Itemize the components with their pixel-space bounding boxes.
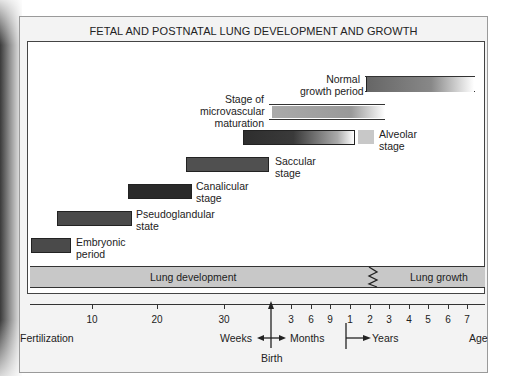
- development-growth-band: Lung development Lung growth: [30, 266, 485, 288]
- tick-label: 6: [438, 314, 458, 325]
- label-line: Saccular: [275, 155, 316, 167]
- axis-label-birth: Birth: [261, 352, 283, 364]
- tick-label: 20: [147, 314, 167, 325]
- bar-alveolar-gradient: [243, 130, 355, 145]
- tick-label: 3: [379, 314, 399, 325]
- axis-label-weeks: Weeks: [220, 332, 252, 344]
- bar-microvascular: [272, 106, 385, 118]
- label-line: stage: [379, 140, 417, 152]
- label-line: Embryonic: [76, 236, 126, 248]
- tick-label: 7: [457, 314, 477, 325]
- bar-pseudoglandular: [57, 211, 132, 226]
- tick: [92, 304, 93, 309]
- tick: [370, 304, 371, 309]
- label-line: state: [136, 220, 215, 232]
- bar-canalicular: [128, 184, 192, 199]
- label-normal-growth: Normal growth period: [300, 73, 360, 97]
- label-line: Canalicular: [196, 180, 249, 192]
- microvascular-top-line: [269, 104, 385, 105]
- label-line: maturation: [200, 117, 264, 129]
- label-saccular: Saccular stage: [275, 155, 316, 179]
- tick-label: 30: [214, 314, 234, 325]
- label-line: Pseudoglandular: [136, 208, 215, 220]
- zigzag-break-icon: [366, 265, 380, 289]
- label-alveolar: Alveolar stage: [379, 128, 417, 152]
- tick: [428, 304, 429, 309]
- label-embryonic: Embryonic period: [76, 236, 126, 260]
- label-line: Stage of: [200, 93, 264, 105]
- tick: [389, 304, 390, 309]
- bar-normal-growth: [366, 77, 474, 92]
- label-line: period: [76, 248, 126, 260]
- bar-saccular: [186, 157, 269, 172]
- bar-embryonic: [31, 238, 71, 253]
- tick-label: 6: [301, 314, 321, 325]
- microvascular-bottom-line: [269, 119, 385, 120]
- tick: [330, 304, 331, 309]
- axis-label-age: Age: [469, 332, 488, 344]
- axis-label-months: Months: [290, 332, 324, 344]
- tick: [448, 304, 449, 309]
- label-line: stage: [275, 167, 316, 179]
- label-line: Normal: [300, 73, 360, 85]
- label-pseudoglandular: Pseudoglandular state: [136, 208, 215, 232]
- tick: [224, 304, 225, 309]
- tick-label: 10: [82, 314, 102, 325]
- tick: [157, 304, 158, 309]
- band-label-growth: Lung growth: [410, 271, 468, 283]
- label-canalicular: Canalicular stage: [196, 180, 249, 204]
- tick-label: 9: [320, 314, 340, 325]
- label-line: Alveolar: [379, 128, 417, 140]
- tick: [350, 304, 351, 309]
- tick: [311, 304, 312, 309]
- tick-label: 5: [418, 314, 438, 325]
- tick: [409, 304, 410, 309]
- label-line: stage: [196, 192, 249, 204]
- tick: [467, 304, 468, 309]
- band-label-development: Lung development: [150, 271, 236, 283]
- axis-label-years: Years: [372, 332, 398, 344]
- axis-label-fertilization: Fertilization: [20, 332, 74, 344]
- birth-arrow-icon: [255, 300, 295, 350]
- bar-alveolar-light: [358, 130, 374, 144]
- label-line: microvascular: [200, 105, 264, 117]
- tick-label: 4: [399, 314, 419, 325]
- figure-title: FETAL AND POSTNATAL LUNG DEVELOPMENT AND…: [20, 25, 487, 37]
- years-arrow-icon: [343, 322, 373, 350]
- label-line: growth period: [300, 85, 360, 97]
- label-microvascular: Stage of microvascular maturation: [200, 93, 264, 129]
